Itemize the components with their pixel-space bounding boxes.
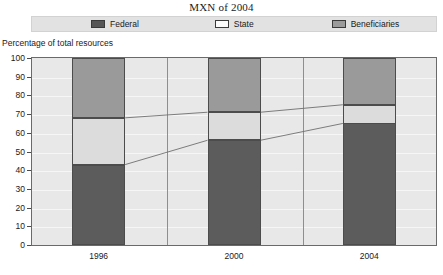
y-tick-label-40: 40 [1, 166, 25, 175]
bar-segment-state-2004[interactable] [343, 105, 396, 124]
legend-label-state: State [234, 19, 254, 29]
legend-label-beneficiaries: Beneficiaries [351, 19, 400, 29]
y-tick-label-100: 100 [1, 54, 25, 63]
y-axis-title: Percentage of total resources [2, 38, 113, 48]
bar-segment-beneficiaries-2000[interactable] [208, 58, 261, 112]
panel-separator [303, 58, 304, 245]
legend-swatch-state-icon [215, 20, 229, 28]
legend-swatch-federal-icon [91, 20, 105, 28]
chart-container: MXN of 2004 Federal State Beneficiaries … [0, 0, 443, 275]
bar-segment-beneficiaries-1996[interactable] [72, 58, 125, 118]
bar-segment-federal-1996[interactable] [72, 165, 125, 245]
x-tick-label-2004: 2004 [339, 251, 399, 261]
chart-title: MXN of 2004 [0, 1, 443, 14]
panel-separator [167, 58, 168, 245]
y-tick-label-90: 90 [1, 73, 25, 82]
x-tick-label-1996: 1996 [69, 251, 129, 261]
legend-label-federal: Federal [110, 19, 139, 29]
legend-item-beneficiaries[interactable]: Beneficiaries [332, 19, 400, 29]
bar-segment-beneficiaries-2004[interactable] [343, 58, 396, 105]
y-tick-label-10: 10 [1, 222, 25, 231]
legend-swatch-beneficiaries-icon [332, 20, 346, 28]
x-tick-label-2000: 2000 [204, 251, 264, 261]
y-tick-label-20: 20 [1, 204, 25, 213]
bar-segment-federal-2000[interactable] [208, 140, 261, 245]
bar-segment-state-1996[interactable] [72, 118, 125, 165]
bar-segment-state-2000[interactable] [208, 112, 261, 140]
bar-segment-federal-2004[interactable] [343, 123, 396, 245]
y-tick-label-0: 0 [1, 241, 25, 250]
y-tick-label-60: 60 [1, 129, 25, 138]
chart-legend: Federal State Beneficiaries [31, 16, 437, 32]
legend-item-state[interactable]: State [215, 19, 254, 29]
legend-item-federal[interactable]: Federal [91, 19, 139, 29]
y-tick-label-70: 70 [1, 110, 25, 119]
y-tick-label-30: 30 [1, 185, 25, 194]
y-tick-label-50: 50 [1, 148, 25, 157]
y-tick-label-80: 80 [1, 91, 25, 100]
